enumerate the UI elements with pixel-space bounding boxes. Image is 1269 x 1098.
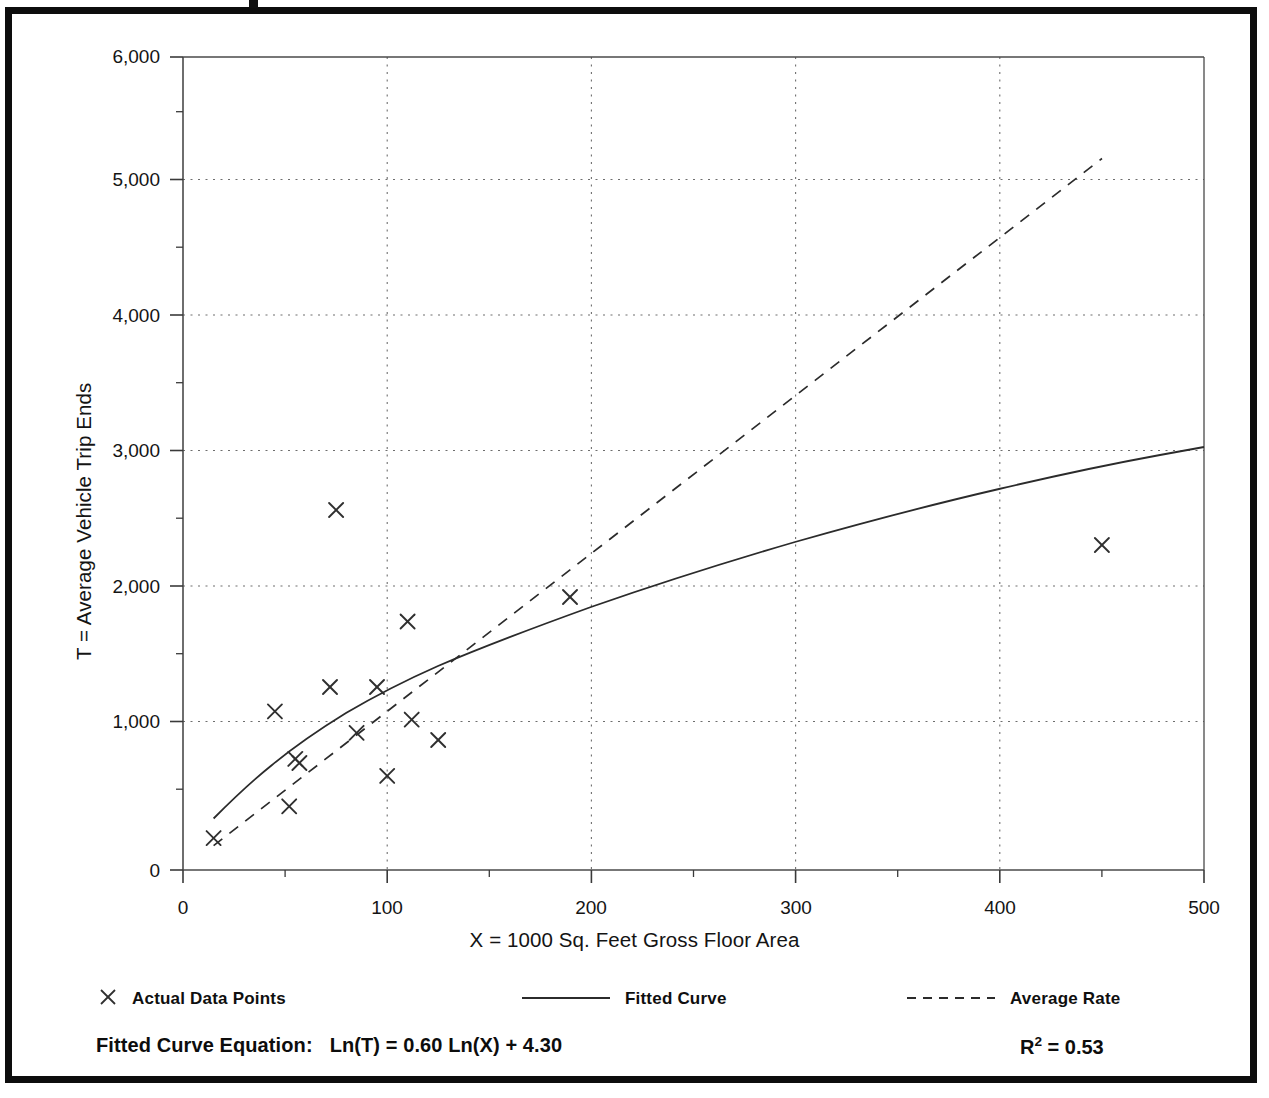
x-tick-label-500: 500 <box>1164 897 1244 919</box>
r-squared-statistic: R2 = 0.53 <box>1020 1034 1104 1059</box>
dashed-line-icon <box>905 990 997 1008</box>
y-tick-label-1000: 1,000 <box>50 711 160 733</box>
y-major-ticks <box>170 57 183 870</box>
y-tick-label-3000: 3,000 <box>50 440 160 462</box>
y-tick-label-0: 0 <box>50 860 160 882</box>
data-point <box>370 680 384 694</box>
data-point <box>350 726 364 740</box>
data-point <box>207 831 221 845</box>
data-point <box>268 704 282 718</box>
data-point <box>405 713 419 727</box>
legend-item-average-rate[interactable]: Average Rate <box>905 982 1120 1016</box>
x-tick-label-300: 300 <box>756 897 836 919</box>
fitted-curve-equation-label: Fitted Curve Equation: <box>96 1034 313 1056</box>
data-point <box>401 615 415 629</box>
data-point <box>323 680 337 694</box>
y-tick-label-5000: 5,000 <box>50 169 160 191</box>
data-point <box>282 799 296 813</box>
chart-plot-area: 0 1,000 2,000 3,000 4,000 5,000 6,000 0 … <box>0 0 1269 1098</box>
r-squared-exponent: 2 <box>1034 1034 1042 1049</box>
horizontal-gridlines <box>183 180 1204 722</box>
x-tick-label-100: 100 <box>347 897 427 919</box>
legend-item-actual-data-points[interactable]: Actual Data Points <box>97 982 286 1016</box>
r-squared-symbol: R <box>1020 1036 1034 1058</box>
x-tick-label-0: 0 <box>143 897 223 919</box>
data-point <box>431 733 445 747</box>
data-point <box>292 756 306 770</box>
x-tick-label-200: 200 <box>551 897 631 919</box>
y-tick-label-4000: 4,000 <box>50 305 160 327</box>
legend-item-fitted-curve[interactable]: Fitted Curve <box>520 982 727 1016</box>
fitted-curve-equation: Fitted Curve Equation: Ln(T) = 0.60 Ln(X… <box>96 1034 562 1057</box>
data-point-markers <box>207 503 1109 845</box>
data-point <box>329 503 343 517</box>
y-axis-title: T = Average Vehicle Trip Ends <box>72 383 96 660</box>
data-point <box>563 590 577 604</box>
average-rate-line <box>214 159 1102 846</box>
fitted-curve-line <box>214 447 1204 819</box>
fitted-curve-equation-value: Ln(T) = 0.60 Ln(X) + 4.30 <box>330 1034 563 1056</box>
legend-label-actual-data-points: Actual Data Points <box>132 989 286 1009</box>
data-point <box>1095 538 1109 552</box>
footer-equation-row: Fitted Curve Equation: Ln(T) = 0.60 Ln(X… <box>0 1034 1269 1074</box>
legend-label-fitted-curve: Fitted Curve <box>625 989 727 1009</box>
chart-page: 0 1,000 2,000 3,000 4,000 5,000 6,000 0 … <box>0 0 1269 1098</box>
x-tick-label-400: 400 <box>960 897 1040 919</box>
solid-line-icon <box>520 990 612 1008</box>
x-minor-ticks <box>285 870 1102 877</box>
chart-legend: Actual Data Points Fitted Curve Average … <box>0 982 1269 1016</box>
y-tick-label-2000: 2,000 <box>50 576 160 598</box>
r-squared-value: = 0.53 <box>1048 1036 1104 1058</box>
x-axis-title: X = 1000 Sq. Feet Gross Floor Area <box>0 928 1269 952</box>
x-marker-icon <box>97 986 119 1012</box>
y-tick-label-6000: 6,000 <box>50 46 160 68</box>
legend-label-average-rate: Average Rate <box>1010 989 1120 1009</box>
